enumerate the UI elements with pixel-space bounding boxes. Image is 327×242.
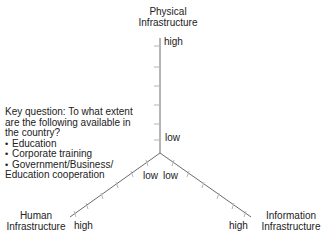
key-question-item-corporate-training: Corporate training — [5, 149, 133, 160]
information-axis-title: Information Infrastructure — [256, 210, 326, 232]
key-question-line3: the country? — [5, 128, 133, 139]
information-low-label: low — [163, 170, 178, 181]
human-low-label: low — [143, 170, 158, 181]
physical-axis-title: Physical Infrastructure — [132, 6, 204, 28]
physical-high-label: high — [164, 36, 183, 47]
key-question-continuation: Education cooperation — [5, 170, 133, 181]
information-title-line1: Information — [256, 210, 326, 221]
human-high-label: high — [74, 220, 93, 231]
information-axis-ticks — [172, 160, 246, 217]
physical-axis-ticks — [154, 46, 160, 140]
information-high-label: high — [229, 220, 248, 231]
key-question-block: Key question: To what extent are the fol… — [5, 107, 133, 181]
human-title-line1: Human — [3, 210, 69, 221]
human-axis-title: Human Infrastructure — [3, 210, 69, 232]
physical-low-label: low — [165, 132, 180, 143]
human-title-line2: Infrastructure — [3, 221, 69, 232]
physical-title-line1: Physical — [132, 6, 204, 17]
key-question-list: Education Corporate training Government/… — [5, 139, 133, 171]
key-question-line1: Key question: To what extent — [5, 107, 133, 118]
information-title-line2: Infrastructure — [256, 221, 326, 232]
physical-title-line2: Infrastructure — [132, 17, 204, 28]
